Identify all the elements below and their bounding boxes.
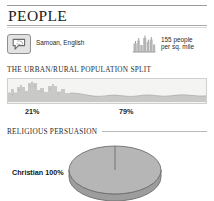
density-text: 155 people per sq. mile bbox=[156, 34, 194, 51]
religion-pie-chart: Christian 100% bbox=[7, 138, 207, 201]
religion-heading-label: RELIGIOUS PERSUASION bbox=[7, 127, 97, 136]
population-density-buildings-icon bbox=[132, 34, 156, 53]
urban-rural-heading-label: THE URBAN/RURAL POPULATION SPLIT bbox=[7, 65, 151, 74]
title-rule-bottom bbox=[7, 25, 207, 26]
languages-text: Samoan, English bbox=[31, 34, 84, 46]
rural-percent: 79% bbox=[119, 107, 133, 116]
density-line-2: per sq. mile bbox=[161, 43, 194, 50]
urban-rural-heading: THE URBAN/RURAL POPULATION SPLIT bbox=[7, 65, 207, 74]
fact-population-density: 155 people per sq. mile bbox=[132, 34, 207, 53]
title-rule-bottom-thin bbox=[7, 27, 207, 28]
urban-percent: 21% bbox=[25, 107, 39, 116]
page-title: PEOPLE bbox=[7, 6, 207, 25]
religion-heading: RELIGIOUS PERSUASION bbox=[7, 127, 207, 136]
people-page: PEOPLE Samoan, English bbox=[0, 5, 214, 201]
speech-bubble-icon bbox=[7, 34, 31, 54]
religion-heading-rule bbox=[102, 131, 207, 132]
fact-languages: Samoan, English bbox=[7, 34, 132, 54]
urban-rural-chart bbox=[7, 78, 207, 104]
urban-rural-values: 21% 79% bbox=[7, 107, 207, 120]
facts-row: Samoan, English bbox=[7, 34, 207, 58]
pie-3d bbox=[67, 140, 163, 201]
urban-rural-silhouette bbox=[8, 79, 207, 102]
pie-label-christian: Christian 100% bbox=[12, 168, 64, 177]
density-line-1: 155 people bbox=[161, 36, 194, 43]
